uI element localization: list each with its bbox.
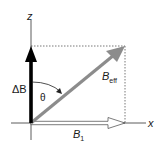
b-eff-label-main: B <box>102 70 109 82</box>
vector-diagram: z x ΔB θ Beff B1 <box>0 0 167 144</box>
b1-label-sub: 1 <box>80 135 84 142</box>
delta-b-arrow <box>25 46 37 123</box>
x-axis-label: x <box>147 117 154 129</box>
theta-arc <box>32 82 62 94</box>
delta-b-label: ΔB <box>12 83 27 95</box>
b-eff-label-sub: eff <box>109 77 117 84</box>
b-eff-arrow <box>31 46 125 123</box>
z-axis-label: z <box>26 10 33 22</box>
b1-label: B1 <box>73 128 84 142</box>
b1-label-main: B <box>73 128 80 140</box>
theta-label: θ <box>40 92 46 103</box>
b-eff-label: Beff <box>102 70 117 84</box>
b1-arrow <box>31 118 125 129</box>
